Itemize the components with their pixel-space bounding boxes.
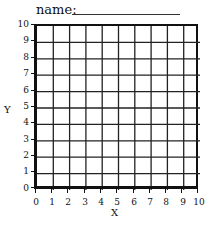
y-tick-label: 7 — [17, 68, 29, 78]
x-tick-label: 0 — [29, 197, 43, 207]
y-tick-label: 9 — [17, 35, 29, 45]
x-tick-label: 8 — [159, 197, 173, 207]
y-tick-mark — [31, 73, 36, 74]
x-tick-label: 10 — [192, 197, 206, 207]
y-tick-mark — [31, 155, 36, 156]
y-tick-label: 0 — [17, 183, 29, 193]
y-tick-label: 8 — [17, 52, 29, 62]
y-tick-mark — [31, 40, 36, 41]
y-tick-mark — [31, 57, 36, 58]
y-tick-mark — [31, 90, 36, 91]
y-axis-label: Y — [4, 104, 11, 115]
x-axis-label: X — [111, 207, 118, 218]
y-tick-mark — [31, 171, 36, 172]
x-tick-label: 5 — [110, 197, 124, 207]
y-tick-label: 10 — [17, 19, 29, 29]
x-tick-mark — [51, 188, 52, 193]
y-tick-label: 2 — [17, 150, 29, 160]
x-tick-mark — [100, 188, 101, 193]
x-tick-label: 1 — [45, 197, 59, 207]
x-tick-mark — [133, 188, 134, 193]
y-tick-label: 3 — [17, 134, 29, 144]
graph-grid[interactable] — [35, 24, 198, 188]
x-tick-label: 2 — [61, 197, 75, 207]
name-label: name: — [36, 2, 77, 17]
x-tick-label: 3 — [78, 197, 92, 207]
name-input-line[interactable] — [72, 14, 180, 15]
y-tick-mark — [31, 106, 36, 107]
x-tick-mark — [149, 188, 150, 193]
x-tick-mark — [35, 188, 36, 193]
x-tick-label: 4 — [94, 197, 108, 207]
x-tick-label: 9 — [176, 197, 190, 207]
x-tick-mark — [116, 188, 117, 193]
x-tick-mark — [181, 188, 182, 193]
y-tick-label: 4 — [17, 117, 29, 127]
y-tick-label: 1 — [17, 166, 29, 176]
y-tick-mark — [31, 24, 36, 25]
x-tick-mark — [84, 188, 85, 193]
x-tick-mark — [197, 188, 198, 193]
y-tick-mark — [31, 122, 36, 123]
x-tick-label: 7 — [143, 197, 157, 207]
x-tick-mark — [165, 188, 166, 193]
x-tick-label: 6 — [127, 197, 141, 207]
x-tick-mark — [67, 188, 68, 193]
grid-lines — [37, 26, 200, 190]
y-tick-label: 6 — [17, 85, 29, 95]
y-tick-mark — [31, 139, 36, 140]
y-tick-label: 5 — [17, 101, 29, 111]
